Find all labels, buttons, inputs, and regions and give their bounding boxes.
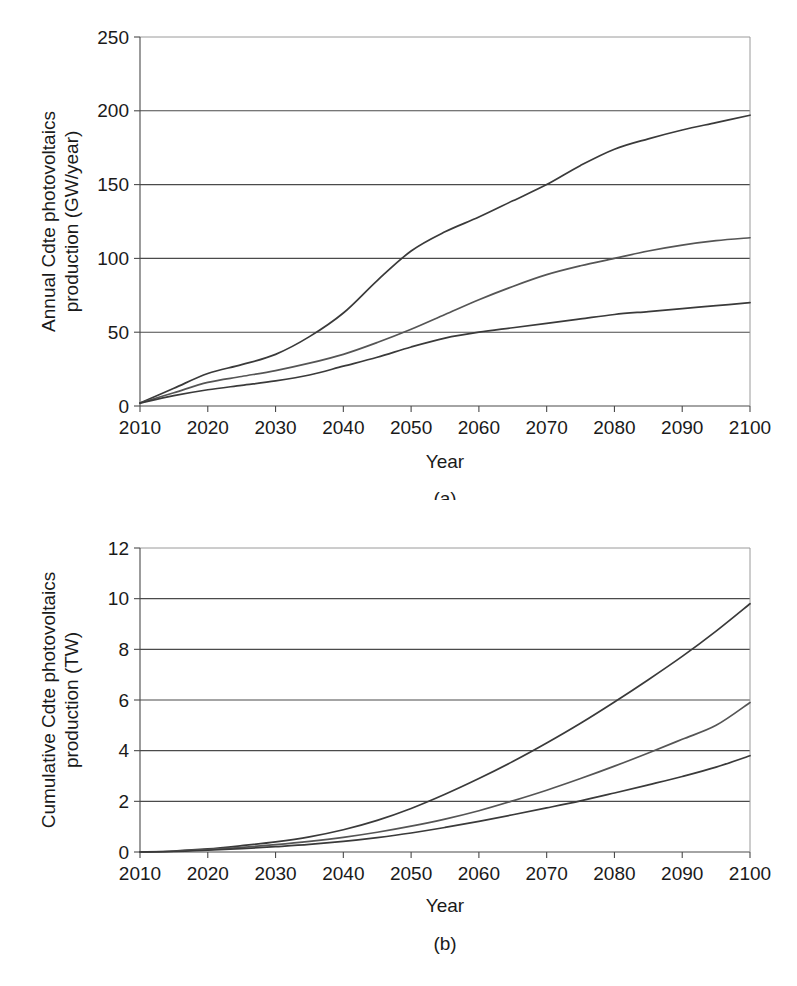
- x-tick-label-2020: 2020: [187, 863, 229, 884]
- y-tick-label-6: 6: [118, 690, 129, 711]
- panel-a: 0501001502002502010202020302040205020602…: [0, 0, 797, 500]
- panel-caption: (b): [433, 933, 456, 954]
- x-tick-label-2020: 2020: [187, 417, 229, 438]
- figure-container: 0501001502002502010202020302040205020602…: [0, 0, 797, 986]
- series-line-low: [140, 756, 750, 852]
- y-axis-title-group: Annual Cdte photovoltaicsproduction (GW/…: [38, 111, 82, 332]
- y-axis-title-line1: Annual Cdte photovoltaics: [38, 111, 59, 332]
- x-tick-label-2090: 2090: [661, 863, 703, 884]
- x-tick-label-2090: 2090: [661, 417, 703, 438]
- y-tick-label-12: 12: [108, 538, 129, 559]
- x-tick-label-2030: 2030: [254, 863, 296, 884]
- series-line-high: [140, 115, 750, 403]
- y-tick-label-200: 200: [97, 100, 129, 121]
- series-line-high: [140, 604, 750, 852]
- x-tick-label-2060: 2060: [458, 863, 500, 884]
- y-tick-label-0: 0: [118, 396, 129, 417]
- x-tick-label-2100: 2100: [729, 863, 771, 884]
- chart-a: 0501001502002502010202020302040205020602…: [0, 0, 797, 500]
- y-tick-label-150: 150: [97, 174, 129, 195]
- y-axis-title-line2: production (TW): [61, 632, 82, 768]
- x-tick-label-2080: 2080: [593, 863, 635, 884]
- series-line-low: [140, 303, 750, 403]
- panel-caption: (a): [433, 488, 456, 500]
- y-tick-label-250: 250: [97, 27, 129, 48]
- x-tick-label-2050: 2050: [390, 417, 432, 438]
- x-tick-label-2040: 2040: [322, 863, 364, 884]
- y-tick-label-100: 100: [97, 248, 129, 269]
- y-tick-label-50: 50: [108, 322, 129, 343]
- series-line-medium: [140, 238, 750, 403]
- panel-b: 0246810122010202020302040205020602070208…: [0, 500, 797, 986]
- y-axis-title-line1: Cumulative Cdte photovoltaics: [38, 572, 59, 829]
- x-tick-label-2040: 2040: [322, 417, 364, 438]
- x-tick-label-2080: 2080: [593, 417, 635, 438]
- x-tick-label-2010: 2010: [119, 417, 161, 438]
- x-tick-label-2070: 2070: [526, 863, 568, 884]
- x-tick-label-2100: 2100: [729, 417, 771, 438]
- x-tick-label-2030: 2030: [254, 417, 296, 438]
- y-tick-label-4: 4: [118, 740, 129, 761]
- x-tick-label-2070: 2070: [526, 417, 568, 438]
- y-tick-label-8: 8: [118, 639, 129, 660]
- y-tick-label-10: 10: [108, 588, 129, 609]
- x-tick-label-2060: 2060: [458, 417, 500, 438]
- chart-b: 0246810122010202020302040205020602070208…: [0, 500, 797, 986]
- x-tick-label-2010: 2010: [119, 863, 161, 884]
- y-axis-title-line2: production (GW/year): [61, 131, 82, 313]
- y-tick-label-2: 2: [118, 791, 129, 812]
- x-axis-title: Year: [426, 895, 465, 916]
- y-axis-title-group: Cumulative Cdte photovoltaicsproduction …: [38, 572, 82, 829]
- x-tick-label-2050: 2050: [390, 863, 432, 884]
- x-axis-title: Year: [426, 451, 465, 472]
- y-tick-label-0: 0: [118, 842, 129, 863]
- series-line-medium: [140, 703, 750, 852]
